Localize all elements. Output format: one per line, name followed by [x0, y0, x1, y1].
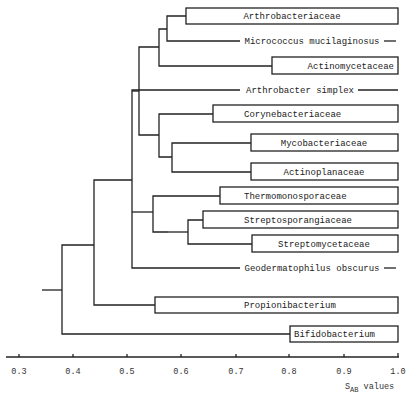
- tick-0.7: 0.7: [228, 367, 243, 377]
- label-arthrobacter-simplex: Arthrobacter simplex: [246, 86, 354, 96]
- tick-0.9: 0.9: [336, 367, 351, 377]
- label-bifidobacterium: Bifidobacterium: [294, 330, 375, 340]
- tick-0.6: 0.6: [173, 367, 188, 377]
- label-mycobacteriaceae: Mycobacteriaceae: [281, 139, 367, 149]
- label-arthrobacteriaceae: Arthrobacteriaceae: [243, 12, 340, 22]
- label-streptomycetaceae: Streptomycetaceae: [278, 240, 370, 250]
- tick-0.4: 0.4: [65, 367, 80, 377]
- dendrogram: Arthrobacteriaceae Micrococcus mucilagin…: [0, 0, 409, 398]
- x-axis: 0.3 0.4 0.5 0.6 0.7 0.8 0.9 1.0 SAB valu…: [6, 353, 406, 394]
- axis-label: SAB values: [345, 382, 394, 394]
- label-corynebacteriaceae: Corynebacteriaceae: [244, 110, 341, 120]
- tick-0.5: 0.5: [119, 367, 134, 377]
- label-geodermatophilus-obscurus: Geodermatophilus obscurus: [244, 264, 379, 274]
- tick-1.0: 1.0: [390, 367, 405, 377]
- label-micrococcus-mucilaginosus: Micrococcus mucilaginosus: [244, 37, 379, 47]
- label-actinomycetaceae: Actinomycetaceae: [308, 62, 394, 72]
- tick-0.8: 0.8: [281, 367, 296, 377]
- label-streptosporangiaceae: Streptosporangiaceae: [244, 216, 352, 226]
- label-actinoplanaceae: Actinoplanaceae: [283, 168, 364, 178]
- tick-0.3: 0.3: [11, 367, 26, 377]
- label-propionibacterium: Propionibacterium: [244, 301, 336, 311]
- label-thermomonosporaceae: Thermomonosporaceae: [244, 192, 347, 202]
